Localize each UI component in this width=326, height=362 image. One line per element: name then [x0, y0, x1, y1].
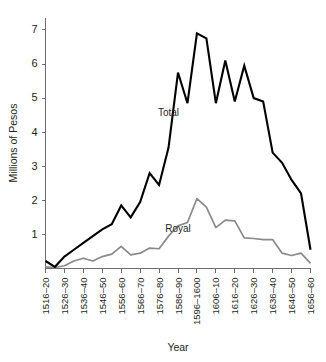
x-tick-label: 1636–40 [267, 278, 278, 315]
x-tick-label: 1616–20 [229, 278, 240, 315]
x-tick-label: 1536–40 [78, 278, 89, 315]
chart-figure: 1234567 Total Royal Millions of Pesos Ye… [0, 0, 326, 362]
x-tick-label: 1626–30 [248, 278, 259, 315]
x-tick-label-group: 1516–201526–301536–401546–501556–601566–… [40, 278, 316, 326]
x-tick-label: 1546–50 [97, 278, 108, 315]
y-tick-label: 3 [31, 160, 37, 172]
x-tick-label: 1646–50 [286, 278, 297, 315]
y-tick-label: 4 [31, 126, 37, 138]
x-tick-label: 1526–30 [59, 278, 70, 315]
series-annotation-total: Total [158, 107, 179, 118]
x-tick-label: 1656–60 [305, 278, 316, 315]
x-tick-label: 1596–1600 [191, 278, 202, 326]
x-tick-label: 1586–90 [173, 278, 184, 315]
y-tick-label: 6 [31, 57, 37, 69]
x-tick-group [46, 269, 311, 273]
chart-canvas: 1234567 Total Royal Millions of Pesos Ye… [0, 0, 326, 362]
x-tick-label: 1566–70 [135, 278, 146, 315]
y-tick-label: 5 [31, 91, 37, 103]
x-tick-label: 1606–10 [210, 278, 221, 315]
x-tick-label: 1516–20 [40, 278, 51, 315]
x-axis-title: Year [167, 341, 189, 353]
y-axis-title: Millions of Pesos [7, 104, 19, 183]
x-tick-label: 1576–80 [154, 278, 165, 315]
y-tick-label: 7 [31, 23, 37, 35]
y-tick-group: 1234567 [31, 23, 45, 239]
x-tick-label: 1556–60 [116, 278, 127, 315]
y-tick-label: 1 [31, 228, 37, 240]
series-annotation-royal: Royal [165, 223, 191, 234]
y-tick-label: 2 [31, 194, 37, 206]
